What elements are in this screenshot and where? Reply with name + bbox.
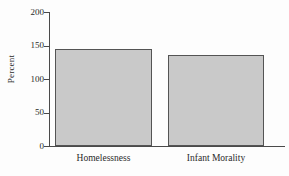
y-axis-tick-labels: 200 150 100 50 0 bbox=[18, 0, 44, 176]
bar-homelessness bbox=[55, 49, 152, 146]
bar-chart: Percent 200 150 100 50 0 Homelessness In… bbox=[0, 0, 289, 176]
y-tick-label-0: 0 bbox=[18, 142, 44, 151]
y-tick-label-50: 50 bbox=[18, 108, 44, 117]
bar-infant-morality bbox=[168, 55, 264, 146]
plot-area bbox=[50, 12, 285, 146]
x-tick-label-homelessness: Homelessness bbox=[55, 153, 152, 163]
x-axis-line bbox=[49, 146, 285, 147]
y-tick-label-150: 150 bbox=[18, 41, 44, 50]
x-tick-label-infant-morality: Infant Morality bbox=[168, 153, 264, 163]
y-tick-label-100: 100 bbox=[18, 75, 44, 84]
y-tick-label-200: 200 bbox=[18, 8, 44, 17]
y-axis-label: Percent bbox=[6, 34, 16, 104]
